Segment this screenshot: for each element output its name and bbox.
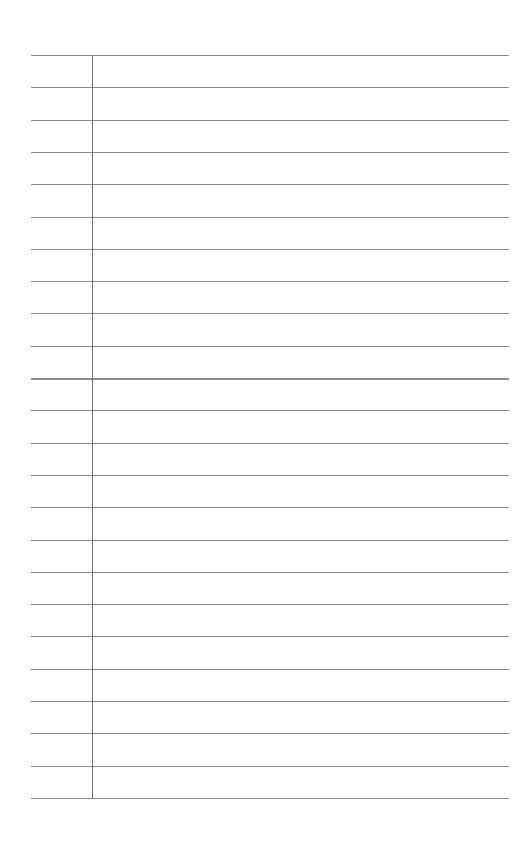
ruled-line [31,733,509,734]
ruled-line [31,636,509,637]
ruled-line [31,217,509,218]
ruled-line [31,120,509,121]
ruled-line [31,87,509,88]
margin-line [92,55,93,798]
ruled-line [31,475,509,476]
ruled-line [31,410,509,411]
lined-paper [0,0,531,844]
ruled-line [31,701,509,702]
ruled-line [31,507,509,508]
ruled-line [31,346,509,347]
ruled-line [31,378,509,380]
ruled-line [31,55,509,56]
ruled-line [31,798,509,799]
ruled-line [31,604,509,605]
ruled-line [31,249,509,250]
ruled-line [31,572,509,573]
ruled-line [31,669,509,670]
ruled-line [31,313,509,314]
ruled-line [31,766,509,767]
ruled-line [31,540,509,541]
ruled-line [31,152,509,153]
ruled-line [31,443,509,444]
ruled-line [31,281,509,282]
ruled-line [31,184,509,185]
